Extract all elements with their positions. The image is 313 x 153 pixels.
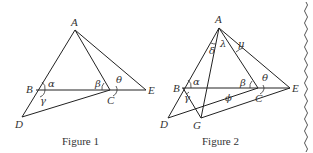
geometry-diagram: A B C D E α β θ γ Figure 1 A B C D E G α… [0, 0, 313, 153]
angle-label-lambda: λ [219, 38, 226, 49]
angle-beta-arc [102, 83, 104, 90]
angle-label-phi: ϕ [225, 92, 232, 103]
point-label-B: B [173, 82, 180, 94]
point-label-D: D [14, 118, 23, 130]
line-AE [219, 28, 290, 88]
angle-label-beta: β [239, 77, 246, 88]
angle-label-beta: β [94, 78, 101, 89]
figure-1-caption: Figure 1 [62, 135, 99, 147]
line-AE [75, 30, 146, 90]
wavy-edge-divider [305, 2, 308, 152]
point-label-D: D [159, 118, 168, 130]
angle-label-gamma: γ [40, 95, 46, 106]
angle-label-delta: δ [209, 45, 215, 56]
angle-beta-arc [250, 81, 252, 88]
angle-label-theta: θ [262, 72, 268, 83]
line-DC [22, 90, 110, 117]
point-label-A: A [214, 13, 222, 25]
angle-delta-arc [211, 43, 216, 44]
line-AD [22, 30, 75, 117]
angle-label-alpha: α [193, 76, 200, 87]
point-label-B: B [26, 83, 33, 95]
figure-2: A B C D E G α β θ γ δ λ μ ϕ Figure 2 [159, 13, 299, 147]
line-AC [75, 30, 110, 90]
line-AC [219, 28, 258, 88]
angle-label-theta: θ [116, 74, 122, 85]
figure-1: A B C D E α β θ γ Figure 1 [14, 16, 155, 147]
line-AD [168, 28, 219, 118]
point-label-A: A [70, 16, 78, 28]
point-label-C: C [107, 94, 115, 106]
point-label-G: G [193, 119, 201, 131]
figure-2-caption: Figure 2 [202, 135, 239, 147]
point-label-E: E [147, 84, 155, 96]
point-label-E: E [291, 82, 299, 94]
angle-label-mu: μ [238, 38, 245, 49]
point-label-C: C [255, 92, 263, 104]
angle-label-alpha: α [48, 78, 55, 89]
angle-label-gamma: γ [184, 92, 190, 103]
